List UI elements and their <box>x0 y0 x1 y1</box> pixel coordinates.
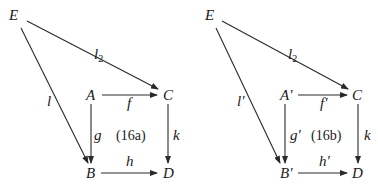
label-g-prime: g′ <box>290 127 302 143</box>
node-E: E <box>204 7 214 23</box>
label-k: k <box>173 127 180 143</box>
node-A-prime: A′ <box>279 87 293 103</box>
diagram-label-16b: (16b) <box>311 128 342 144</box>
node-A: A <box>85 87 96 103</box>
label-h-prime: h′ <box>319 153 331 169</box>
arrow-l2 <box>222 21 348 89</box>
label-l2: l2 <box>288 46 297 64</box>
diagram-16b: E A′ C B′ D l2 l′ f′ g′ k h′ (16b) <box>204 7 371 181</box>
label-h: h <box>126 153 134 169</box>
node-C: C <box>352 87 363 103</box>
node-B-prime: B′ <box>280 165 293 181</box>
diagram-canvas: E A C B D l2 l f g k h (16a) E A′ C B′ D <box>0 0 378 188</box>
node-D: D <box>162 165 174 181</box>
arrow-l <box>21 28 88 163</box>
arrow-l-prime <box>216 28 280 163</box>
diagram-label-16a: (16a) <box>116 128 146 144</box>
label-l2: l2 <box>94 46 103 64</box>
node-E: E <box>8 7 18 23</box>
node-D: D <box>351 165 363 181</box>
node-C: C <box>163 87 174 103</box>
node-B: B <box>86 165 95 181</box>
diagram-16a: E A C B D l2 l f g k h (16a) <box>8 7 180 181</box>
label-k: k <box>364 127 371 143</box>
label-f: f <box>127 95 133 111</box>
label-l: l <box>47 93 51 109</box>
label-l-prime: l′ <box>237 93 245 109</box>
label-f-prime: f′ <box>320 95 328 111</box>
label-g: g <box>94 127 102 143</box>
